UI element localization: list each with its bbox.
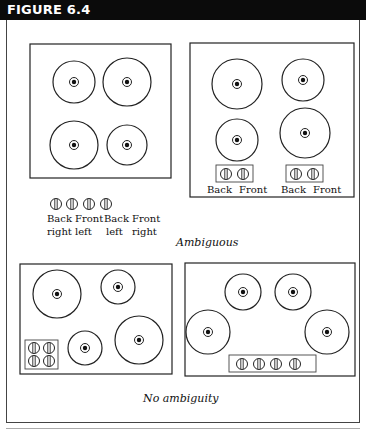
knob-label-1-line1: Back — [47, 213, 73, 224]
burner-center-dot — [235, 138, 239, 142]
burner-center-dot — [137, 338, 141, 342]
control-knob-icon — [271, 359, 282, 370]
control-knob-icon — [44, 343, 55, 354]
burner-center-dot — [72, 80, 76, 84]
control-knob-icon — [308, 169, 319, 180]
burner — [186, 310, 230, 354]
burner — [280, 108, 330, 158]
control-knob-icon — [51, 199, 62, 210]
burner — [103, 58, 151, 106]
burner-center-dot — [72, 143, 76, 147]
knob-label-3-line2: left — [106, 226, 123, 237]
panel-bottom-left — [20, 264, 172, 374]
stove-diagram: Back right Front left Back left Front ri… — [0, 0, 366, 435]
panel-top-right: Back Front Back Front — [190, 43, 354, 197]
control-knob-icon — [29, 343, 40, 354]
burner — [33, 270, 81, 318]
burner — [212, 59, 262, 109]
panel-bottom-right — [185, 263, 355, 376]
control-knob-icon — [254, 359, 265, 370]
knob-label-2-line2: left — [75, 226, 92, 237]
caption-ambiguous: Ambiguous — [175, 236, 239, 249]
burner — [115, 316, 163, 364]
burner — [275, 274, 311, 310]
panel-top-left: Back right Front left Back left Front ri… — [30, 44, 171, 237]
burner-center-dot — [235, 82, 239, 86]
burner-center-dot — [83, 346, 87, 350]
group-right-label-front: Front — [313, 184, 341, 195]
burner-center-dot — [291, 290, 295, 294]
burner-center-dot — [241, 290, 245, 294]
burner — [50, 121, 98, 169]
burner-center-dot — [325, 330, 329, 334]
group-right-label-back: Back — [281, 184, 307, 195]
burner-center-dot — [55, 292, 59, 296]
burner-center-dot — [206, 330, 210, 334]
knob-label-2-line1: Front — [75, 213, 103, 224]
burner — [107, 125, 147, 165]
burner — [225, 274, 261, 310]
caption-no-ambiguity: No ambiguity — [142, 392, 219, 405]
control-knob-icon — [237, 359, 248, 370]
knob-label-4-line2: right — [132, 226, 157, 237]
control-knob-icon — [221, 169, 232, 180]
control-knob-icon — [67, 199, 78, 210]
burner — [282, 59, 324, 101]
burner-center-dot — [301, 78, 305, 82]
control-knob-icon — [238, 169, 249, 180]
burner-center-dot — [116, 285, 120, 289]
burner — [216, 119, 258, 161]
stovetop-outline — [30, 44, 171, 178]
burner — [305, 310, 349, 354]
burner-center-dot — [125, 143, 129, 147]
stovetop-outline — [185, 263, 355, 376]
control-knob-icon — [101, 199, 112, 210]
control-knob-icon — [44, 356, 55, 367]
knob-label-1-line2: right — [47, 226, 72, 237]
control-knob-icon — [291, 169, 302, 180]
knob-label-4-line1: Front — [132, 213, 160, 224]
control-knob-icon — [84, 199, 95, 210]
control-knob-icon — [290, 359, 301, 370]
burner-center-dot — [303, 131, 307, 135]
group-left-label-back: Back — [207, 184, 233, 195]
stovetop-outline — [20, 264, 172, 374]
burner — [53, 61, 95, 103]
burner — [68, 331, 102, 365]
stovetop-outline — [190, 43, 354, 197]
burner-center-dot — [125, 80, 129, 84]
knob-label-3-line1: Back — [104, 213, 130, 224]
group-left-label-front: Front — [239, 184, 267, 195]
burner — [101, 270, 135, 304]
control-knob-icon — [29, 356, 40, 367]
